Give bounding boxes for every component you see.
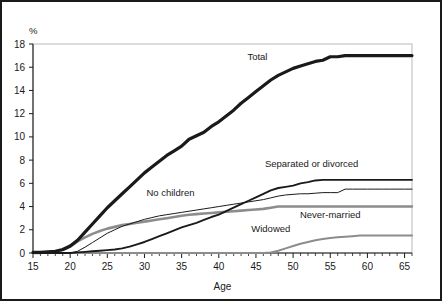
y-tick-label: 14 xyxy=(14,85,26,96)
chart-stage: 0246810121416181520253035404550556065%Ag… xyxy=(2,2,440,299)
y-tick-label: 2 xyxy=(19,224,25,235)
y-axis-unit-label: % xyxy=(29,25,38,36)
x-tick-label: 50 xyxy=(288,261,300,272)
chart-figure: 0246810121416181520253035404550556065%Ag… xyxy=(0,0,442,301)
series-label-separated-or-divorced: Separated or divorced xyxy=(265,158,358,169)
y-tick-label: 0 xyxy=(19,248,25,259)
y-tick-label: 10 xyxy=(14,131,26,142)
x-tick-label: 30 xyxy=(139,261,151,272)
line-chart: 0246810121416181520253035404550556065%Ag… xyxy=(2,2,440,299)
x-tick-label: 65 xyxy=(399,261,411,272)
y-tick-label: 8 xyxy=(19,155,25,166)
y-tick-label: 16 xyxy=(14,62,26,73)
series-line-no-children xyxy=(33,189,412,253)
series-label-total: Total xyxy=(247,51,267,62)
series-label-widowed: Widowed xyxy=(251,223,290,234)
series-label-no-children: No children xyxy=(146,187,194,198)
y-tick-label: 4 xyxy=(19,201,25,212)
x-tick-label: 45 xyxy=(250,261,262,272)
y-tick-label: 12 xyxy=(14,108,26,119)
plot-frame xyxy=(33,44,412,253)
x-tick-label: 15 xyxy=(27,261,39,272)
x-tick-label: 25 xyxy=(102,261,114,272)
y-tick-label: 6 xyxy=(19,178,25,189)
series-label-never-married: Never-married xyxy=(300,209,361,220)
y-tick-label: 18 xyxy=(14,39,26,50)
x-tick-label: 35 xyxy=(176,261,188,272)
x-axis-title: Age xyxy=(214,281,232,292)
x-tick-label: 60 xyxy=(362,261,374,272)
series-line-total xyxy=(33,56,412,253)
x-tick-label: 40 xyxy=(213,261,225,272)
x-tick-label: 20 xyxy=(65,261,77,272)
x-tick-label: 55 xyxy=(325,261,337,272)
